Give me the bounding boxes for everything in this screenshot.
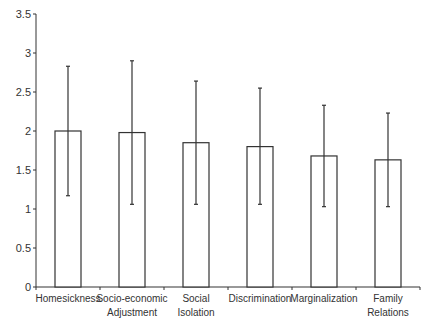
y-tick-label: 2.5 — [16, 86, 31, 98]
category-label: Family — [373, 293, 402, 304]
y-tick-label: 2 — [25, 125, 31, 137]
bars — [55, 131, 401, 287]
category-label: Socio-economic — [96, 293, 167, 304]
category-labels: HomesicknessSocio-economicAdjustmentSoci… — [35, 293, 408, 318]
category-label: Isolation — [177, 307, 214, 318]
category-label: Social — [182, 293, 209, 304]
y-tick-label: 1 — [25, 203, 31, 215]
y-tick-label: 0 — [25, 281, 31, 293]
x-axis — [36, 287, 420, 290]
category-label: Homesickness — [35, 293, 100, 304]
category-label: Marginalization — [290, 293, 357, 304]
bar-chart: 00.511.522.533.5 HomesicknessSocio-econo… — [0, 0, 423, 329]
y-tick-label: 1.5 — [16, 164, 31, 176]
error-bars — [66, 61, 390, 207]
category-label: Discrimination — [229, 293, 292, 304]
y-tick-label: 3 — [25, 47, 31, 59]
y-tick-label: 0.5 — [16, 242, 31, 254]
y-tick-label: 3.5 — [16, 8, 31, 20]
category-label: Relations — [367, 307, 409, 318]
category-label: Adjustment — [107, 307, 157, 318]
y-axis: 00.511.522.533.5 — [16, 8, 36, 293]
